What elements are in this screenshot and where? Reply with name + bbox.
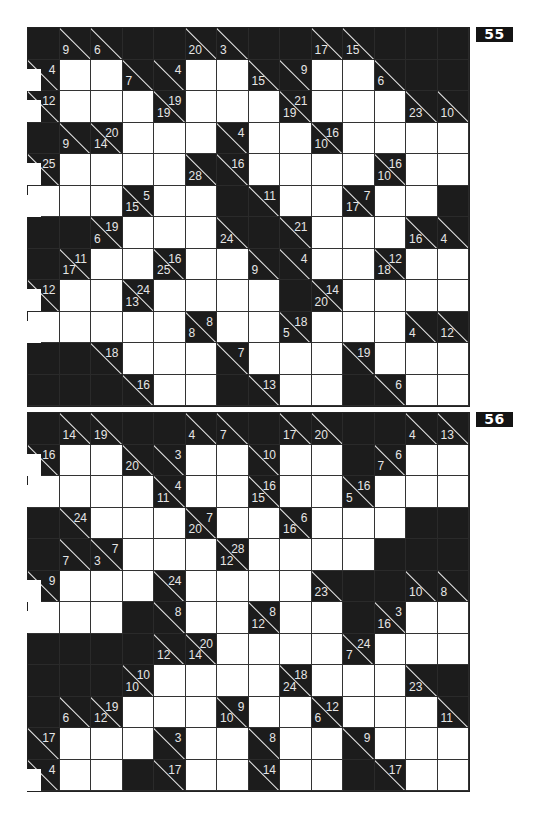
answer-cell[interactable] bbox=[312, 539, 344, 571]
answer-cell[interactable] bbox=[249, 665, 281, 697]
answer-cell[interactable] bbox=[217, 760, 249, 792]
answer-cell[interactable] bbox=[312, 476, 344, 508]
answer-cell[interactable] bbox=[217, 602, 249, 634]
answer-cell[interactable] bbox=[123, 539, 155, 571]
answer-cell[interactable] bbox=[217, 91, 249, 123]
answer-cell[interactable] bbox=[312, 634, 344, 666]
answer-cell[interactable] bbox=[312, 760, 344, 792]
answer-cell[interactable] bbox=[186, 602, 218, 634]
answer-cell[interactable] bbox=[438, 123, 470, 155]
answer-cell[interactable] bbox=[343, 123, 375, 155]
answer-cell[interactable] bbox=[280, 154, 312, 186]
answer-cell[interactable] bbox=[343, 91, 375, 123]
answer-cell[interactable] bbox=[186, 445, 218, 477]
answer-cell[interactable] bbox=[154, 186, 186, 218]
answer-cell[interactable] bbox=[249, 508, 281, 540]
answer-cell[interactable] bbox=[406, 697, 438, 729]
answer-cell[interactable] bbox=[375, 476, 407, 508]
answer-cell[interactable] bbox=[343, 154, 375, 186]
answer-cell[interactable] bbox=[438, 154, 470, 186]
answer-cell[interactable] bbox=[60, 60, 92, 92]
answer-cell[interactable] bbox=[406, 602, 438, 634]
answer-cell[interactable] bbox=[60, 445, 92, 477]
answer-cell[interactable] bbox=[217, 445, 249, 477]
answer-cell[interactable] bbox=[375, 217, 407, 249]
answer-cell[interactable] bbox=[217, 312, 249, 344]
answer-cell[interactable] bbox=[312, 343, 344, 375]
answer-cell[interactable] bbox=[343, 665, 375, 697]
answer-cell[interactable] bbox=[280, 634, 312, 666]
answer-cell[interactable] bbox=[217, 508, 249, 540]
answer-cell[interactable] bbox=[123, 343, 155, 375]
answer-cell[interactable] bbox=[312, 154, 344, 186]
answer-cell[interactable] bbox=[249, 312, 281, 344]
answer-cell[interactable] bbox=[91, 249, 123, 281]
answer-cell[interactable] bbox=[312, 728, 344, 760]
answer-cell[interactable] bbox=[343, 60, 375, 92]
answer-cell[interactable] bbox=[249, 697, 281, 729]
answer-cell[interactable] bbox=[312, 312, 344, 344]
answer-cell[interactable] bbox=[249, 154, 281, 186]
answer-cell[interactable] bbox=[60, 186, 92, 218]
answer-cell[interactable] bbox=[280, 728, 312, 760]
answer-cell[interactable] bbox=[60, 571, 92, 603]
answer-cell[interactable] bbox=[406, 445, 438, 477]
answer-cell[interactable] bbox=[280, 697, 312, 729]
answer-cell[interactable] bbox=[375, 634, 407, 666]
answer-cell[interactable] bbox=[406, 123, 438, 155]
answer-cell[interactable] bbox=[154, 154, 186, 186]
answer-cell[interactable] bbox=[249, 91, 281, 123]
answer-cell[interactable] bbox=[217, 280, 249, 312]
answer-cell[interactable] bbox=[186, 60, 218, 92]
answer-cell[interactable] bbox=[406, 343, 438, 375]
answer-cell[interactable] bbox=[438, 375, 470, 407]
answer-cell[interactable] bbox=[91, 312, 123, 344]
answer-cell[interactable] bbox=[343, 697, 375, 729]
answer-cell[interactable] bbox=[312, 91, 344, 123]
answer-cell[interactable] bbox=[438, 728, 470, 760]
answer-cell[interactable] bbox=[154, 217, 186, 249]
answer-cell[interactable] bbox=[280, 375, 312, 407]
answer-cell[interactable] bbox=[343, 280, 375, 312]
answer-cell[interactable] bbox=[312, 186, 344, 218]
answer-cell[interactable] bbox=[123, 154, 155, 186]
answer-cell[interactable] bbox=[217, 634, 249, 666]
answer-cell[interactable] bbox=[438, 445, 470, 477]
answer-cell[interactable] bbox=[343, 312, 375, 344]
answer-cell[interactable] bbox=[60, 760, 92, 792]
answer-cell[interactable] bbox=[186, 343, 218, 375]
answer-cell[interactable] bbox=[154, 343, 186, 375]
answer-cell[interactable] bbox=[343, 539, 375, 571]
answer-cell[interactable] bbox=[406, 186, 438, 218]
answer-cell[interactable] bbox=[343, 217, 375, 249]
answer-cell[interactable] bbox=[91, 602, 123, 634]
answer-cell[interactable] bbox=[406, 375, 438, 407]
answer-cell[interactable] bbox=[438, 634, 470, 666]
answer-cell[interactable] bbox=[249, 280, 281, 312]
answer-cell[interactable] bbox=[186, 91, 218, 123]
answer-cell[interactable] bbox=[186, 249, 218, 281]
answer-cell[interactable] bbox=[123, 249, 155, 281]
answer-cell[interactable] bbox=[438, 343, 470, 375]
answer-cell[interactable] bbox=[438, 280, 470, 312]
answer-cell[interactable] bbox=[280, 186, 312, 218]
answer-cell[interactable] bbox=[154, 123, 186, 155]
answer-cell[interactable] bbox=[312, 375, 344, 407]
answer-cell[interactable] bbox=[280, 343, 312, 375]
answer-cell[interactable] bbox=[123, 476, 155, 508]
answer-cell[interactable] bbox=[186, 280, 218, 312]
answer-cell[interactable] bbox=[375, 343, 407, 375]
answer-cell[interactable] bbox=[280, 760, 312, 792]
answer-cell[interactable] bbox=[91, 760, 123, 792]
answer-cell[interactable] bbox=[60, 312, 92, 344]
answer-cell[interactable] bbox=[375, 312, 407, 344]
answer-cell[interactable] bbox=[280, 445, 312, 477]
answer-cell[interactable] bbox=[60, 728, 92, 760]
answer-cell[interactable] bbox=[249, 343, 281, 375]
answer-cell[interactable] bbox=[91, 186, 123, 218]
answer-cell[interactable] bbox=[60, 280, 92, 312]
answer-cell[interactable] bbox=[91, 476, 123, 508]
answer-cell[interactable] bbox=[249, 539, 281, 571]
answer-cell[interactable] bbox=[217, 249, 249, 281]
answer-cell[interactable] bbox=[154, 697, 186, 729]
